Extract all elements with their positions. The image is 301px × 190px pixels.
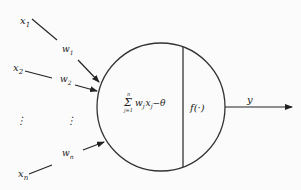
input-x1-line — [32, 19, 57, 40]
neuron-diagram: x1 w1 x2 w2 ⋮ ⋮ xn wn Σ n j=1 wjxj−θ f(·… — [0, 0, 301, 190]
input-ellipsis: ⋮ — [16, 115, 26, 126]
summation-formula: Σ n j=1 wjxj−θ — [123, 91, 166, 114]
weight-w1-arrow — [78, 60, 99, 82]
weight-w1-label: w1 — [62, 44, 74, 56]
svg-text:n: n — [127, 91, 130, 97]
weight-wn-label: wn — [62, 148, 74, 160]
output-y-label: y — [246, 94, 253, 105]
input-x2-line — [25, 71, 52, 78]
input-xn-label: xn — [18, 168, 29, 182]
input-x1-label: x1 — [20, 15, 30, 29]
svg-text:wjxj−θ: wjxj−θ — [135, 98, 166, 110]
weight-w2-arrow — [75, 85, 97, 91]
activation-function-label: f(·) — [189, 102, 205, 113]
weight-w2-label: w2 — [60, 74, 72, 86]
input-x2-label: x2 — [13, 62, 24, 76]
weight-ellipsis: ⋮ — [66, 115, 76, 126]
weight-wn-arrow — [83, 142, 104, 150]
input-xn-line — [29, 165, 52, 174]
svg-text:j=1: j=1 — [123, 107, 133, 114]
